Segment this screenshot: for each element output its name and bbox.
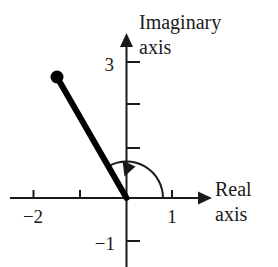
imaginary-axis-arrowhead — [120, 33, 133, 47]
complex-number-point-marker — [51, 71, 64, 84]
complex-number-vector-group — [51, 71, 127, 199]
imaginary-axis-group — [120, 33, 140, 267]
real-axis-group — [10, 190, 212, 205]
argand-diagram-figure: 3 −1 −2 1 Imaginary axis Real axis — [0, 0, 278, 267]
imaginary-axis-label-line2: axis — [139, 36, 171, 58]
real-axis-arrowhead — [198, 192, 212, 205]
real-axis-label-line2: axis — [215, 203, 247, 225]
argand-diagram-svg: 3 −1 −2 1 Imaginary axis Real axis — [0, 0, 278, 267]
imaginary-axis-label-line1: Imaginary — [139, 11, 221, 34]
tick-label-imaginary-3: 3 — [105, 54, 115, 75]
tick-label-real--2: −2 — [23, 206, 43, 227]
tick-label-real-1: 1 — [167, 206, 177, 227]
complex-number-vector-line — [58, 78, 127, 198]
real-axis-label-line1: Real — [215, 178, 252, 200]
tick-label-imaginary--1: −1 — [95, 233, 115, 254]
